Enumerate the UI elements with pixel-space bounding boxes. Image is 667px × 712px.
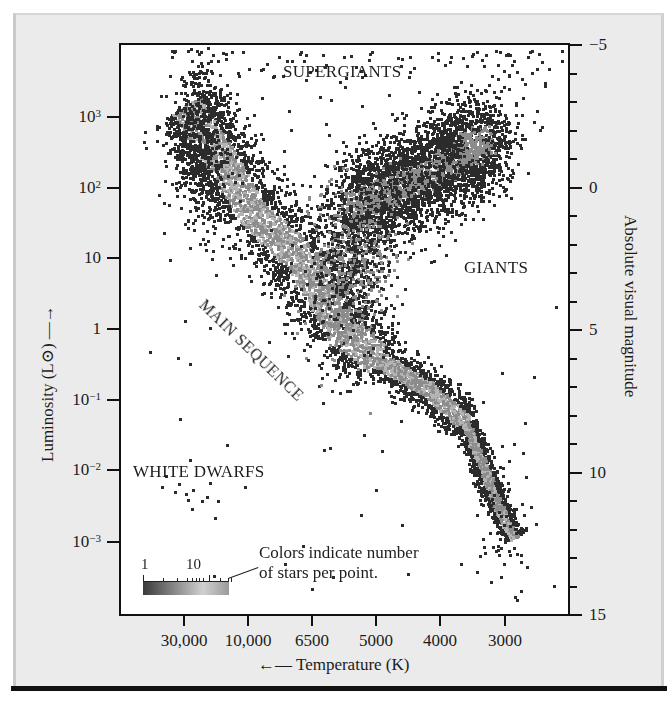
y-tick-label-right: 5: [589, 321, 598, 338]
colorbar: [143, 582, 229, 595]
x-tick: [311, 614, 313, 626]
y-tick-left: [107, 116, 119, 118]
label-supergiants: SUPERGIANTS: [283, 63, 402, 81]
x-tick-label: 3000: [488, 632, 522, 649]
y-tick-label-left: 10: [84, 249, 101, 266]
x-tick-label: 4000: [423, 632, 457, 649]
plot-area: [119, 43, 570, 616]
label-white-dwarfs: WHITE DWARFS: [133, 463, 265, 481]
y-tick-right: [568, 301, 577, 303]
scatter-points: [121, 45, 568, 614]
y-tick-label-left: 10−2: [72, 461, 101, 478]
y-tick-right: [568, 472, 582, 474]
y-tick-left: [107, 187, 119, 189]
y-axis-title-left: Luminosity (L⊙) —→: [38, 305, 57, 462]
y-tick-right: [568, 101, 577, 103]
y-tick-right: [568, 500, 577, 502]
y-tick-label-left: 1: [93, 320, 102, 337]
y-tick-right: [568, 158, 577, 160]
x-tick-label: 10,000: [225, 632, 272, 649]
colorbar-tick: [231, 578, 232, 582]
x-tick-label: 5000: [359, 632, 393, 649]
y-tick-right: [568, 557, 577, 559]
y-tick-label-right: 0: [589, 179, 598, 196]
x-tick: [504, 614, 506, 626]
label-giants: GIANTS: [464, 259, 528, 277]
y-tick-label-left: 102: [79, 179, 102, 196]
colorbar-label-10: 10: [186, 557, 201, 572]
y-tick-right: [568, 329, 582, 331]
y-tick-right: [568, 187, 582, 189]
y-tick-right: [568, 415, 577, 417]
x-tick: [247, 614, 249, 626]
y-tick-left: [107, 328, 119, 330]
y-tick-right: [568, 386, 577, 388]
y-tick-right: [568, 244, 577, 246]
colorbar-label-1: 1: [141, 557, 149, 572]
y-tick-left: [107, 257, 119, 259]
y-tick-right: [568, 586, 577, 588]
x-axis-title: ←— Temperature (K): [258, 655, 409, 674]
legend-note-line1: Colors indicate number: [259, 543, 419, 563]
y-tick-label-left: 10−3: [72, 533, 101, 550]
legend-note-line2: of stars per point.: [259, 563, 419, 583]
y-tick-label-left: 103: [79, 108, 102, 125]
x-tick: [183, 614, 185, 626]
y-tick-right: [568, 130, 577, 132]
y-tick-right: [568, 272, 577, 274]
y-tick-label-right: −5: [589, 36, 607, 53]
y-tick-left: [107, 469, 119, 471]
x-tick-label: 6500: [295, 632, 329, 649]
y-tick-right: [568, 73, 577, 75]
x-tick-label: 30,000: [161, 632, 208, 649]
x-tick: [439, 614, 441, 626]
y-tick-right: [568, 529, 577, 531]
y-tick-left: [107, 399, 119, 401]
y-tick-label-right: 15: [589, 606, 606, 623]
y-tick-right: [568, 215, 577, 217]
x-tick: [375, 614, 377, 626]
y-tick-right: [568, 44, 582, 46]
y-tick-right: [568, 358, 577, 360]
y-tick-right: [568, 614, 582, 616]
y-tick-label-right: 10: [589, 464, 606, 481]
y-axis-title-right: Absolute visual magnitude: [621, 215, 640, 397]
y-tick-left: [107, 541, 119, 543]
bottom-rule: [11, 686, 667, 691]
legend-note: Colors indicate number of stars per poin…: [259, 543, 419, 583]
y-tick-label-left: 10−1: [72, 391, 101, 408]
y-tick-right: [568, 443, 577, 445]
